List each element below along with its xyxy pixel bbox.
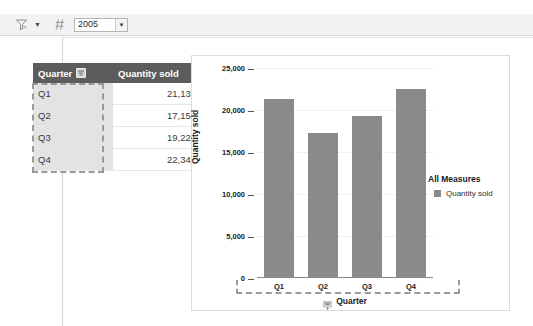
chart-bars xyxy=(257,67,433,277)
column-header-quantity-sold-label: Quantity sold xyxy=(118,68,179,79)
filter-funnel-icon[interactable] xyxy=(14,17,29,32)
sort-filter-icon[interactable] xyxy=(323,296,333,306)
x-axis-selection-handle-right xyxy=(458,280,460,294)
legend-item-label: Quantity sold xyxy=(446,189,493,198)
y-tick: 0 xyxy=(241,274,254,283)
cell-quantity: 22,344 xyxy=(113,149,201,171)
chart-x-axis-label-row: Quarter xyxy=(257,296,433,306)
x-axis-selection-outline xyxy=(236,292,460,294)
quantity-table: Quarter Quantity sold Q1 xyxy=(33,63,181,171)
table-row[interactable]: Q1 21,135 xyxy=(33,83,201,105)
chart-x-axis-label: Quarter xyxy=(336,296,367,306)
table-row[interactable]: Q3 19,224 xyxy=(33,127,201,149)
year-select[interactable]: 2005 ▼ xyxy=(74,18,128,32)
y-tick: 5,000 xyxy=(226,232,254,241)
filter-dropdown-caret-icon[interactable]: ▼ xyxy=(33,18,42,32)
bar-q4[interactable] xyxy=(396,89,426,277)
chart-plot-area xyxy=(257,68,433,278)
cell-quantity: 19,224 xyxy=(113,127,201,149)
chart-x-axis-ticks: Q1 Q2 Q3 Q4 xyxy=(257,282,433,291)
bar-q3[interactable] xyxy=(352,116,382,277)
parameter-icon xyxy=(53,17,68,32)
legend-item[interactable]: Quantity sold xyxy=(428,189,506,198)
y-tick: 10,000 xyxy=(222,190,254,199)
cell-quantity: 17,152 xyxy=(113,105,201,127)
x-tick: Q4 xyxy=(396,282,426,291)
y-tick: 15,000 xyxy=(222,148,254,157)
cell-quarter[interactable]: Q4 xyxy=(33,149,113,171)
year-select-caret-icon[interactable]: ▼ xyxy=(115,19,127,31)
year-select-value: 2005 xyxy=(75,20,98,29)
cell-quantity: 21,135 xyxy=(113,83,201,105)
legend-title: All Measures xyxy=(428,174,506,184)
bar-chart: Quantity sold 0 5,000 10,000 15,000 20,0… xyxy=(191,55,510,311)
column-header-quantity-sold[interactable]: Quantity sold xyxy=(113,63,201,83)
toolbar: ▼ 2005 ▼ xyxy=(0,14,533,36)
bar-q1[interactable] xyxy=(264,99,294,277)
x-tick: Q2 xyxy=(308,282,338,291)
table-row[interactable]: Q4 22,344 xyxy=(33,149,201,171)
legend-swatch-icon xyxy=(434,190,441,197)
column-header-quarter-label: Quarter xyxy=(38,68,72,79)
cell-quarter[interactable]: Q3 xyxy=(33,127,113,149)
y-tick: 20,000 xyxy=(222,106,254,115)
chart-y-axis-label: Quantity sold xyxy=(190,110,200,164)
x-axis-selection-handle-left xyxy=(236,280,238,294)
x-tick: Q3 xyxy=(352,282,382,291)
x-tick: Q1 xyxy=(264,282,294,291)
y-tick: 25,000 xyxy=(222,64,254,73)
cell-quarter[interactable]: Q1 xyxy=(33,83,113,105)
table-row[interactable]: Q2 17,152 xyxy=(33,105,201,127)
sort-filter-icon[interactable] xyxy=(76,68,86,78)
column-header-quarter[interactable]: Quarter xyxy=(33,63,113,83)
table-body: Q1 21,135 Q2 17,152 Q3 19,224 Q4 22,344 xyxy=(33,83,201,171)
chart-x-axis-line xyxy=(257,277,433,278)
cell-quarter[interactable]: Q2 xyxy=(33,105,113,127)
table-header-row: Quarter Quantity sold xyxy=(33,63,201,83)
chart-y-axis-ticks: 0 5,000 10,000 15,000 20,000 25,000 xyxy=(206,56,254,310)
bar-q2[interactable] xyxy=(308,133,338,277)
chart-legend: All Measures Quantity sold xyxy=(428,174,506,198)
